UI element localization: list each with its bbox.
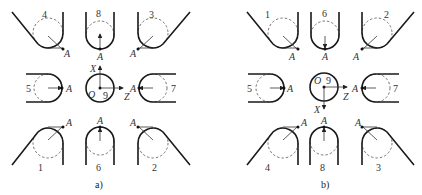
point-a-label: A [321, 51, 329, 62]
tool-position-a-bottom-center: 6 A [86, 115, 114, 173]
tool-position-b-bottom-center: 8 A [310, 115, 338, 173]
x-axis-label: X [89, 63, 97, 74]
position-number: 8 [96, 8, 101, 19]
point-a-label: A [63, 48, 71, 59]
position-number: 3 [149, 9, 154, 20]
point-a-label: A [96, 51, 104, 62]
point-a-label: A [352, 51, 360, 62]
point-a-label: A [354, 117, 362, 128]
point-a-label: A [351, 83, 359, 94]
panel-caption: a) [95, 179, 103, 191]
tool-position-a-mid-left: 5 A [26, 74, 73, 102]
panel-caption: b) [321, 179, 329, 191]
tool-position-b-mid-left: 5 A [247, 74, 294, 102]
x-axis-label: X [313, 104, 321, 115]
point-a-label: A [288, 51, 296, 62]
tool-position-b-top-right: 2 A [352, 9, 414, 62]
point-a-label: A [129, 117, 137, 128]
z-axis-label: Z [343, 91, 349, 102]
tool-position-b-bottom-left: 4 A [247, 117, 308, 173]
tool-position-a-mid-right: 7 A [129, 74, 176, 102]
position-number: 7 [393, 83, 398, 94]
origin-label: O [88, 89, 95, 100]
position-number: 2 [384, 9, 389, 20]
tool-position-a-center: X Z O 9 [86, 63, 130, 102]
origin-label: O [314, 75, 321, 86]
tool-position-a-bottom-right: 2 A [129, 117, 190, 173]
tool-position-b-bottom-right: 3 A [354, 117, 414, 173]
panel-b: 1 A 6 A 2 A 5 A [247, 8, 414, 191]
point-a-label: A [129, 48, 137, 59]
tool-position-b-center: X Z O 9 [310, 73, 349, 115]
point-a-label: A [320, 115, 328, 126]
tool-position-a-top-center: 8 A [86, 8, 114, 62]
position-number: 3 [376, 162, 381, 173]
tool-position-b-top-left: 1 A [247, 9, 300, 62]
position-number: 6 [96, 162, 101, 173]
position-number: 6 [322, 8, 327, 19]
position-number: 2 [152, 162, 157, 173]
position-number: 8 [320, 162, 325, 173]
position-number: 4 [265, 162, 270, 173]
point-a-label: A [65, 117, 73, 128]
tool-nose-diagram: 4 A 8 A 3 A 5 A [0, 0, 422, 195]
center-number: 9 [103, 90, 108, 101]
position-number: 1 [265, 9, 270, 20]
position-number: 5 [26, 83, 31, 94]
point-a-label: A [96, 115, 104, 126]
tool-position-b-top-center: 6 A [311, 8, 339, 62]
position-number: 5 [247, 83, 252, 94]
tool-position-a-bottom-left: 1 A [12, 117, 73, 173]
panel-a: 4 A 8 A 3 A 5 A [12, 8, 190, 191]
position-number: 7 [171, 83, 176, 94]
point-a-label: A [286, 83, 294, 94]
tool-position-a-top-right: 3 A [129, 9, 190, 59]
point-a-label: A [300, 117, 308, 128]
point-a-label: A [129, 83, 137, 94]
center-number: 9 [326, 75, 331, 86]
tool-position-a-top-left: 4 A [12, 9, 71, 59]
position-number: 1 [38, 162, 43, 173]
position-number: 4 [42, 9, 47, 20]
point-a-label: A [65, 83, 73, 94]
tool-position-b-mid-right: 7 A [351, 74, 399, 102]
